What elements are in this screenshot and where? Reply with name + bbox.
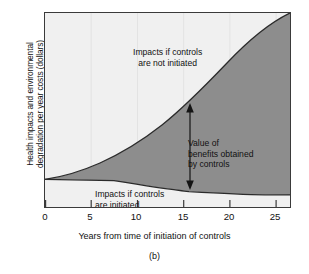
x-tick-label-10: 10 [124, 211, 148, 222]
x-tick-label-20: 20 [217, 211, 241, 222]
plot-canvas [45, 13, 290, 207]
annotation-benefits-line-3: by controls [188, 159, 253, 170]
annotation-benefits-line-2: benefits obtained [188, 149, 253, 160]
annotation-not-initiated-line-2: are not initiated [133, 58, 202, 69]
figure-caption: (b) [0, 251, 309, 261]
x-tick-label-25: 25 [263, 211, 287, 222]
annotation-not-initiated-line-1: Impacts if controls [133, 47, 202, 58]
annotation-value-of-benefits: Value of benefits obtained by controls [188, 138, 253, 170]
annotation-initiated-line-2: are initiated [95, 200, 164, 208]
annotation-initiated-line-1: Impacts if controls [95, 189, 164, 200]
annotation-impacts-initiated: Impacts if controls are initiated [95, 189, 164, 208]
y-axis-title: Health impacts and environmental degrada… [25, 4, 46, 204]
figure-chart-b: Health impacts and environmental degrada… [0, 0, 309, 274]
x-tick-label-0: 0 [33, 211, 57, 222]
annotation-impacts-not-initiated: Impacts if controls are not initiated [133, 47, 202, 68]
y-axis-title-line-1: Health impacts and environmental [25, 4, 35, 204]
x-tick-label-5: 5 [78, 211, 102, 222]
x-axis-title: Years from time of initiation of control… [0, 231, 309, 241]
annotation-benefits-line-1: Value of [188, 138, 253, 149]
plot-area: Impacts if controls are not initiated Im… [44, 12, 291, 208]
x-tick-label-15: 15 [171, 211, 195, 222]
